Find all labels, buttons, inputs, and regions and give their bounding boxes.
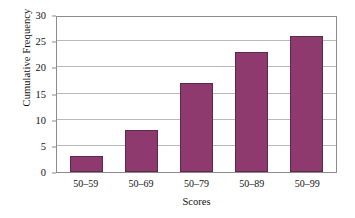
- x-axis-tick-labels: 50–5950–6950–7950–8950–99: [56, 178, 337, 189]
- cumulative-frequency-bar-chart: Cumulative Frequency 051015202530 50–595…: [0, 0, 355, 218]
- y-tick-label: 20: [36, 63, 47, 73]
- bar: [70, 156, 103, 172]
- y-tick-label: 30: [36, 11, 47, 21]
- y-tick-label: 15: [36, 90, 47, 100]
- bar: [125, 130, 158, 172]
- bar: [235, 52, 268, 172]
- y-axis-tick-labels: 051015202530: [0, 16, 52, 173]
- x-tick-label: 50–99: [285, 178, 329, 189]
- bars-group: [57, 17, 336, 172]
- bar: [180, 83, 213, 172]
- y-tick-label: 25: [36, 37, 47, 47]
- x-tick-label: 50–79: [174, 178, 218, 189]
- plot-area: [56, 16, 337, 173]
- x-tick-label: 50–59: [64, 178, 108, 189]
- y-tick-label: 0: [41, 168, 46, 178]
- y-tick-label: 10: [36, 116, 47, 126]
- y-tick-label: 5: [41, 142, 46, 152]
- x-tick-label: 50–89: [230, 178, 274, 189]
- x-tick-label: 50–69: [119, 178, 163, 189]
- x-axis-title: Scores: [56, 196, 337, 207]
- bar: [290, 36, 323, 172]
